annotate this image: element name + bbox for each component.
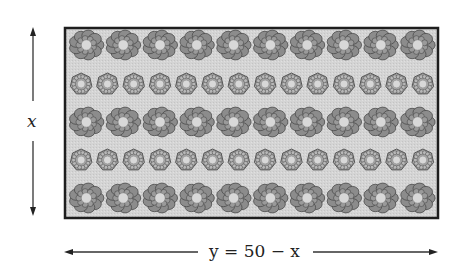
large-flower [70,30,104,60]
large-flower [327,30,361,60]
small-flower [97,73,119,94]
large-flower [290,30,324,60]
small-flower [176,73,197,94]
large-flower [327,183,361,213]
large-flower [290,183,324,213]
small-flower [70,73,92,94]
small-flower [307,73,328,94]
small-flower [333,73,354,94]
small-flower [123,73,144,94]
large-flower [254,30,288,60]
large-flower [180,30,214,60]
small-flower [281,149,303,170]
large-flower [143,107,177,137]
large-flower [290,107,324,137]
large-flower [327,107,361,137]
large-flower [364,183,398,213]
large-flower [401,30,435,60]
small-flower [149,149,170,170]
small-flower [386,149,408,170]
large-flower [254,183,288,213]
horizontal-dimension-label: y = 50 − x [209,241,300,261]
large-flower [106,183,140,213]
diagram-canvas: x y = 50 − x [0,0,460,277]
small-flower [281,73,303,94]
large-flower [143,183,177,213]
large-flower [70,107,104,137]
vertical-dimension-label: x [27,111,37,131]
small-flower [254,149,276,170]
large-flower [217,30,251,60]
small-flower [97,149,119,170]
small-flower [176,149,197,170]
large-flower [180,183,214,213]
large-flower [364,107,398,137]
large-flower [106,107,140,137]
large-flower [106,30,140,60]
small-flower [386,73,408,94]
diagram-svg [0,0,460,277]
small-flower [123,149,144,170]
small-flower [307,149,328,170]
large-flower [217,183,251,213]
large-flower [70,183,104,213]
small-flower [333,149,354,170]
small-flower [228,149,250,170]
small-flower [254,73,276,94]
large-flower [217,107,251,137]
small-flower [228,73,250,94]
small-flower [412,149,434,170]
large-flower [401,107,435,137]
large-flower [143,30,177,60]
small-flower [202,73,224,94]
large-flower [364,30,398,60]
small-flower [360,73,381,94]
small-flower [360,149,381,170]
small-flower [70,149,92,170]
large-flower [254,107,288,137]
large-flower [401,183,435,213]
large-flower [180,107,214,137]
small-flower [202,149,224,170]
small-flower [412,73,434,94]
small-flower [149,73,170,94]
